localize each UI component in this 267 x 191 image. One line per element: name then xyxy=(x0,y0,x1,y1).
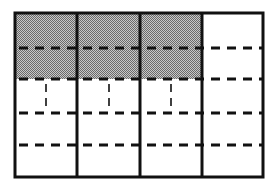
shaded-region xyxy=(15,13,202,79)
shaded-cell xyxy=(77,13,140,48)
shaded-cell xyxy=(77,48,140,79)
fraction-grid-diagram xyxy=(0,0,267,191)
shaded-cell xyxy=(15,13,77,48)
shaded-cell xyxy=(15,48,77,79)
shaded-cell xyxy=(140,13,202,48)
shaded-cell xyxy=(140,48,202,79)
